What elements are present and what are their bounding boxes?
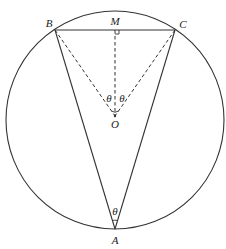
segment-ab <box>55 30 115 229</box>
label-theta-left-o: θ <box>106 92 112 104</box>
label-m: M <box>109 15 120 27</box>
label-a: A <box>111 234 119 246</box>
label-theta-a: θ <box>112 205 118 217</box>
label-c: C <box>179 18 187 30</box>
label-o: O <box>111 118 119 130</box>
point-o-dot <box>114 115 116 117</box>
label-b: B <box>46 17 53 29</box>
circle-geometry-diagram: B C M O A θ θ θ <box>0 0 226 249</box>
right-angle-marker <box>115 30 119 34</box>
segment-ac <box>115 30 175 229</box>
label-theta-right-o: θ <box>119 92 125 104</box>
